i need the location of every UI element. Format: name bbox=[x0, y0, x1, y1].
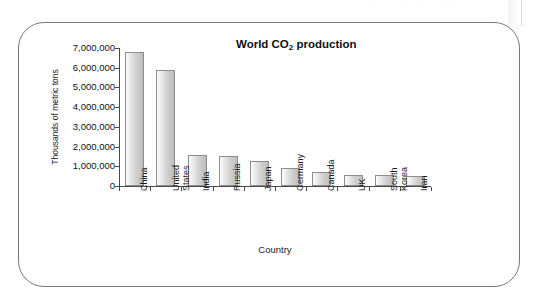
y-axis-tick-labels: 01,000,0002,000,0003,000,0004,000,0005,0… bbox=[59, 0, 115, 303]
y-tick-mark bbox=[115, 147, 119, 148]
x-tick-mark bbox=[369, 187, 370, 191]
y-tick-mark bbox=[115, 166, 119, 167]
x-label-china: China bbox=[139, 167, 149, 191]
x-tick-mark bbox=[213, 187, 214, 191]
x-tick-mark bbox=[150, 187, 151, 191]
x-label-russia: Russia bbox=[232, 163, 242, 191]
page-canvas: . . . . . . . . . World CO2 production T… bbox=[0, 0, 539, 303]
x-axis-title: Country bbox=[119, 244, 431, 255]
x-label-germany: Germany bbox=[295, 154, 305, 191]
y-tick-mark bbox=[115, 127, 119, 128]
y-tick-label: 6,000,000 bbox=[59, 62, 115, 73]
chart-title-part-2: production bbox=[293, 38, 356, 50]
x-label-line: UK bbox=[357, 178, 367, 191]
x-label-japan: Japan bbox=[263, 166, 273, 191]
x-label-line: Russia bbox=[232, 163, 242, 191]
y-tick-mark bbox=[115, 68, 119, 69]
y-tick-label: 2,000,000 bbox=[59, 141, 115, 152]
x-label-line: States bbox=[181, 165, 191, 191]
y-tick-mark bbox=[115, 107, 119, 108]
x-label-uk: UK bbox=[357, 178, 367, 191]
bar-china bbox=[125, 52, 144, 186]
x-label-line: South bbox=[389, 167, 399, 191]
chart-title-part-1: World CO bbox=[236, 38, 289, 50]
y-tick-mark bbox=[115, 48, 119, 49]
x-label-line: Korea bbox=[399, 167, 409, 191]
x-label-united-states: UnitedStates bbox=[171, 165, 191, 191]
x-label-line: Canada bbox=[326, 159, 336, 191]
x-tick-mark bbox=[119, 187, 120, 191]
bar-chart: World CO2 production Thousands of metric… bbox=[0, 0, 539, 303]
x-tick-mark bbox=[275, 187, 276, 191]
x-label-line: China bbox=[139, 167, 149, 191]
x-tick-mark bbox=[337, 187, 338, 191]
x-label-line: Japan bbox=[263, 166, 273, 191]
y-tick-label: 5,000,000 bbox=[59, 81, 115, 92]
x-label-line: Iran bbox=[419, 175, 429, 191]
y-tick-label: 3,000,000 bbox=[59, 121, 115, 132]
y-tick-label: 1,000,000 bbox=[59, 160, 115, 171]
x-tick-mark bbox=[306, 187, 307, 191]
x-label-line: Germany bbox=[295, 154, 305, 191]
x-tick-mark bbox=[244, 187, 245, 191]
x-label-india: India bbox=[201, 171, 211, 191]
x-label-line: United bbox=[171, 165, 181, 191]
y-tick-label: 0 bbox=[59, 180, 115, 191]
x-tick-mark bbox=[431, 187, 432, 191]
y-tick-mark bbox=[115, 87, 119, 88]
y-axis-line bbox=[119, 48, 120, 186]
chart-title: World CO2 production bbox=[236, 38, 357, 52]
x-label-south-korea: SouthKorea bbox=[389, 167, 409, 191]
x-label-canada: Canada bbox=[326, 159, 336, 191]
y-tick-label: 4,000,000 bbox=[59, 101, 115, 112]
x-label-line: India bbox=[201, 171, 211, 191]
y-tick-label: 7,000,000 bbox=[59, 42, 115, 53]
x-label-iran: Iran bbox=[419, 175, 429, 191]
